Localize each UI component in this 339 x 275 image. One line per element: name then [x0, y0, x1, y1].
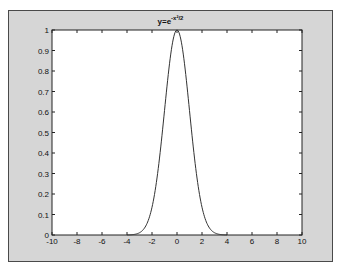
y-tick-label: 0.3 [38, 170, 50, 179]
y-tick-label: 0.7 [38, 88, 50, 97]
y-tick-label: 0 [45, 231, 50, 240]
x-tick-label: -6 [98, 237, 106, 246]
x-tick-label: 10 [298, 237, 307, 246]
x-tick-label: 4 [225, 237, 230, 246]
y-tick-label: 0.8 [38, 67, 50, 76]
x-tick-label: 2 [200, 237, 205, 246]
x-tick-label: -4 [123, 237, 131, 246]
x-tick-label: -2 [148, 237, 156, 246]
axes-box [52, 30, 302, 235]
x-tick-label: -8 [73, 237, 81, 246]
y-tick-label: 0.5 [38, 129, 50, 138]
y-tick-label: 0.4 [38, 149, 50, 158]
y-tick-label: 0.1 [38, 211, 50, 220]
y-tick-label: 0.2 [38, 190, 50, 199]
y-tick-label: 1 [45, 26, 50, 35]
y-tick-label: 0.6 [38, 108, 50, 117]
y-tick-label: 0.9 [38, 47, 50, 56]
x-tick-label: 0 [175, 237, 180, 246]
plot-area: -10-8-6-4-2024681000.10.20.30.40.50.60.7… [0, 0, 339, 275]
x-tick-label: 8 [275, 237, 280, 246]
x-tick-label: 6 [250, 237, 255, 246]
